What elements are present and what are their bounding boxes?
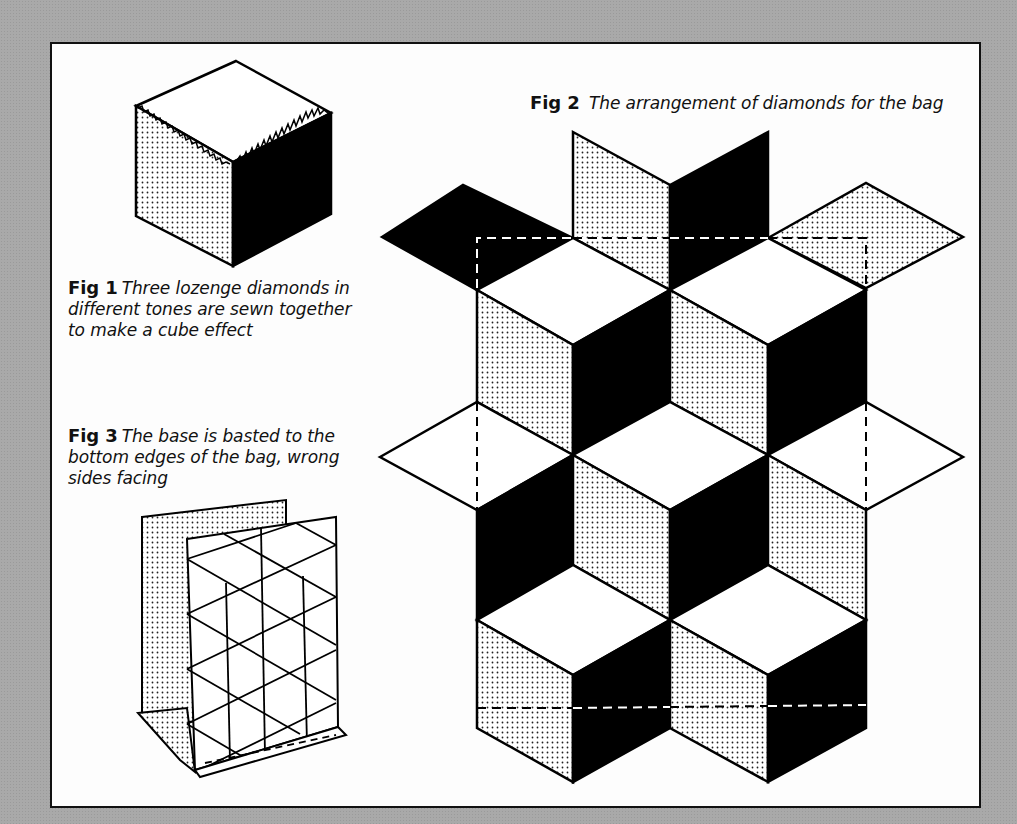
fig3-caption-line: The base is basted to the: [122, 426, 335, 446]
fig1-cube: [136, 61, 331, 266]
fig1-caption-line: to make a cube effect: [68, 320, 388, 341]
fig3-caption-line: bottom edges of the bag, wrong: [68, 447, 388, 468]
fig1-caption-line: different tones are sewn together: [68, 299, 388, 320]
fig1-caption: Fig 1Three lozenge diamonds in different…: [68, 277, 388, 341]
fig2-caption-text: The arrangement of diamonds for the bag: [589, 93, 943, 113]
fig1-caption-line: Three lozenge diamonds in: [122, 278, 350, 298]
fig3-label: Fig 3: [68, 425, 118, 446]
fig3-bag-base: [138, 500, 346, 777]
fig3-caption: Fig 3The base is basted to the bottom ed…: [68, 425, 388, 489]
fig2-arrangement: [380, 132, 963, 782]
base-flap-stippled: [138, 708, 195, 772]
fig2-label: Fig 2: [530, 92, 580, 113]
fig2-caption: Fig 2 The arrangement of diamonds for th…: [530, 92, 943, 114]
fig3-caption-line: sides facing: [68, 468, 388, 489]
fig1-label: Fig 1: [68, 277, 118, 298]
diagram-artwork: [0, 0, 1017, 824]
